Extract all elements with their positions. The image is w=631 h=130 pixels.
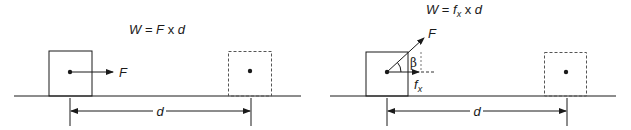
final-center-dot (564, 70, 568, 74)
distance-label: d (156, 104, 164, 119)
force-label: F (119, 65, 128, 80)
right-equation: W = fx x d (426, 2, 483, 19)
distance-label: d (473, 104, 481, 119)
final-box (229, 52, 272, 97)
final-center-dot (248, 69, 252, 73)
angle-label: β (410, 56, 417, 70)
force-label: F (428, 26, 437, 41)
left-equation: W = F x d (129, 22, 186, 37)
component-label: fx (414, 77, 423, 94)
right-panel: W = fx x d F β fx d (330, 2, 616, 126)
angle-arc (398, 63, 402, 73)
force-arrow-angled (387, 38, 424, 72)
work-diagram: W = F x d F d W = fx x d F β fx (0, 0, 631, 130)
left-panel: W = F x d F d (14, 22, 301, 126)
final-box (545, 53, 587, 97)
